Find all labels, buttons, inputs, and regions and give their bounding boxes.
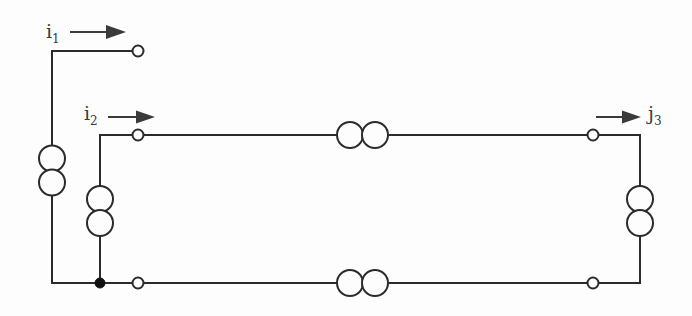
circuit-schematic-canvas: [0, 0, 692, 316]
wire-group: [52, 51, 640, 283]
current-label-i2: i2: [84, 104, 98, 127]
current-label-j3-subscript: 3: [654, 114, 662, 128]
terminal-port2-bottom[interactable]: [133, 278, 144, 289]
current-arrow-j3: [596, 111, 641, 124]
current-arrow-i2: [108, 111, 155, 124]
inductor-top-horizontal: [337, 122, 388, 148]
inductor-mid-vertical: [87, 186, 113, 236]
current-arrow-i1: [70, 25, 126, 39]
inductor-right-vertical: [627, 186, 653, 236]
current-label-i1-subscript: 1: [52, 32, 60, 46]
terminal-port2-top[interactable]: [133, 130, 144, 141]
terminal-port3-top[interactable]: [588, 130, 599, 141]
circuit-diagram: i1 i2 j3: [0, 0, 692, 316]
current-label-i1: i1: [46, 22, 60, 45]
current-label-i2-subscript: 2: [90, 114, 98, 128]
junction-dot-common-node: [95, 278, 105, 288]
terminal-port3-bottom[interactable]: [588, 278, 599, 289]
inductor-bottom-horizontal: [337, 270, 388, 296]
terminal-port1-top[interactable]: [133, 46, 144, 57]
current-label-j3: j3: [648, 104, 662, 127]
inductor-left-vertical: [39, 146, 65, 196]
